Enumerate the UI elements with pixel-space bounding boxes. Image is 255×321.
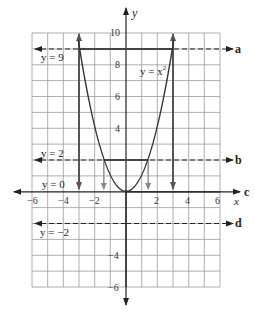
tick-x-m4: −4 (58, 195, 69, 206)
tick-y-m4: −4 (108, 250, 119, 261)
x-axis-label: x (233, 195, 239, 207)
label-y0: y = 0 (42, 178, 65, 190)
graph: −6 −4 −2 2 4 6 10 8 6 4 −4 −6 y x y = 9 … (0, 0, 255, 321)
tick-x-m2: −2 (89, 195, 100, 206)
tick-y-4: 4 (115, 123, 120, 134)
marker-d: d (235, 216, 242, 230)
tick-y-6: 6 (115, 91, 120, 102)
y-axis-label: y (131, 6, 138, 20)
tick-x-m6: −6 (27, 195, 38, 206)
tick-x-6: 6 (215, 195, 220, 206)
label-y2: y = 2 (41, 147, 64, 159)
tick-y-8: 8 (115, 59, 120, 70)
label-y9: y = 9 (41, 51, 64, 63)
label-y-neg2: y = −2 (40, 226, 69, 238)
tick-y-10: 10 (110, 27, 120, 38)
marker-c: c (244, 185, 250, 199)
tick-y-m6: −6 (108, 282, 119, 293)
marker-b: b (235, 153, 242, 167)
tick-x-4: 4 (185, 195, 190, 206)
tick-x-2: 2 (154, 195, 159, 206)
curve-label: y = x2 (140, 64, 167, 77)
marker-a: a (235, 42, 241, 56)
